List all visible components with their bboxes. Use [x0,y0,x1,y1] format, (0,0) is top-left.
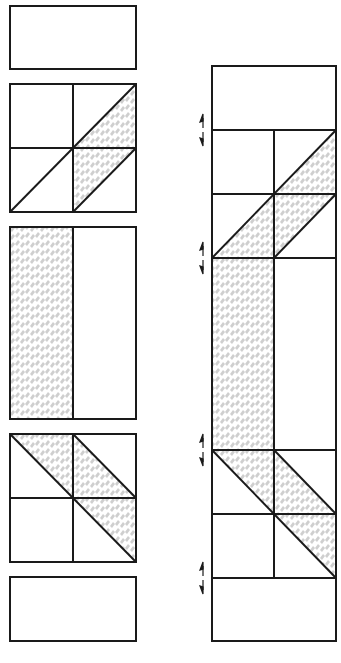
rectangle-bottom [10,577,136,641]
rectangle-top [10,6,136,69]
four-patch-upper [10,84,136,212]
four-patch-lower [10,434,136,562]
pressing-arrow-icon [200,562,203,594]
left-column [10,6,136,641]
strip-unit [10,227,136,419]
right-column [212,66,336,641]
quilt-assembly-diagram [0,0,341,663]
pressing-arrow-icon [200,242,203,274]
pressing-arrow-icon [200,434,203,466]
pressing-arrows [200,114,203,594]
pressing-arrow-icon [200,114,203,146]
